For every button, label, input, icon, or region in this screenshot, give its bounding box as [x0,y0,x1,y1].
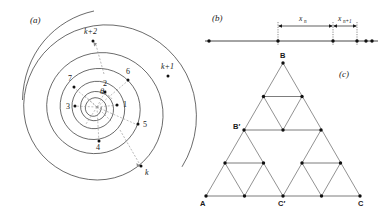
spiral-point-label: 1 [123,100,127,109]
panel-b-group: (b) x n x n [205,13,378,45]
vertex-label-A: A [200,199,206,208]
sierpinski-dot [243,194,246,197]
panel-c-label: (c) [339,69,349,79]
panel-a-group: (a) [23,11,197,180]
number-line-dot [207,39,210,42]
number-line-dot [355,39,358,42]
spiral-point-dot [74,105,77,108]
spiral-point-dot [116,104,119,107]
sierpinski-dot [319,128,322,131]
spiral-curve [24,25,197,180]
spiral-point-label: 5 [143,120,147,129]
number-line-dot [331,39,334,42]
sierpinski-dot [281,194,284,197]
x-n-subscript: n [304,18,307,24]
sierpinski-dot [358,194,361,197]
figure-canvas: (a) [0,0,385,215]
arrowhead-left-xn1 [333,24,337,28]
spiral-point-dot [137,123,140,126]
spiral-curve-group [23,11,197,180]
measurement-arrows [278,24,357,28]
x-n-label: x [298,14,303,23]
spiral-outer-dot [92,40,95,43]
sierpinski-dot [300,161,303,164]
spiral-outer-label-k1: k+1 [161,62,174,71]
number-line-dot [276,39,279,42]
number-line-ticks [278,22,357,45]
vertex-label-Bp: B′ [233,122,240,131]
sierpinski-dot [339,161,342,164]
spiral-point-label: 4 [96,143,100,152]
x-n1-label: x [337,14,342,23]
sierpinski-dot [281,128,284,131]
vertex-label-B: B [280,51,286,60]
sierpinski-dot [262,161,265,164]
spiral-outer-label-k2: k+2 [84,27,97,36]
vertex-label-Cp: C′ [278,199,285,208]
figure-root: (a) [0,0,385,215]
number-line-dot [364,39,367,42]
sierpinski-dot [320,194,323,197]
sierpinski-dot [262,95,265,98]
sierpinski-dot [204,194,207,197]
panel-b-label: (b) [212,13,223,23]
spiral-outer-label-k: k [145,168,149,177]
spiral-point-label: 7 [68,74,72,83]
measurement-labels: x n x n+1 [298,14,352,24]
panel-a-label: (a) [30,15,41,25]
spiral-outer-dot [140,165,143,168]
sierpinski-dot [242,128,245,131]
vertex-label-C: C [358,199,364,208]
spiral-point-label: 2 [103,79,107,88]
sierpinski-dot [223,161,226,164]
arrowhead-right-xn [329,24,333,28]
spiral-point-dot [127,79,130,82]
x-n1-subscript: n+1 [343,18,352,24]
sierpinski-dot [300,95,303,98]
arrowhead-left-xn [278,24,282,28]
sierpinski-vertex-dots [204,61,361,197]
arrowhead-right-xn1 [353,24,357,28]
panel-c-group: (c) [200,51,364,208]
spiral-point-label: 6 [126,67,130,76]
spiral-point-dot [73,86,76,89]
spiral-point-dot [104,91,107,94]
spiral-outer-dot [167,75,170,78]
spiral-point-label: 3 [66,102,70,111]
sierpinski-dot [281,61,284,64]
number-line-dot [370,39,373,42]
